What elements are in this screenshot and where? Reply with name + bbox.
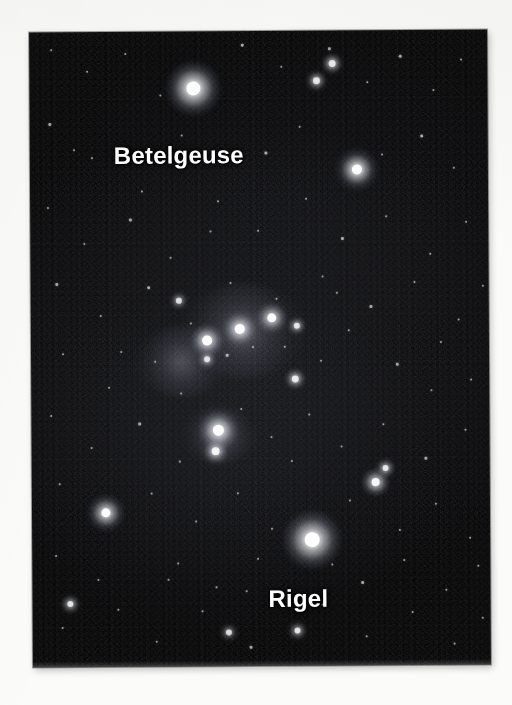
field-star [246, 590, 248, 592]
field-star [349, 499, 351, 501]
star-field [29, 30, 487, 33]
field-star [129, 218, 132, 221]
field-star [305, 198, 307, 200]
star-epsilon-leporis [226, 629, 232, 635]
star-halo [285, 369, 305, 389]
field-star [190, 322, 192, 324]
field-star [83, 243, 85, 245]
field-star [460, 59, 462, 61]
nebulosity-layer [29, 30, 487, 33]
field-star [369, 305, 372, 308]
field-star [366, 81, 368, 83]
field-star [320, 360, 322, 362]
star-halo [307, 72, 325, 90]
field-star [86, 71, 88, 73]
star-tau-orionis [294, 323, 300, 329]
field-star [97, 579, 99, 581]
star-eta-leporis [372, 478, 380, 486]
field-star [440, 341, 442, 343]
star-phi-orionis [313, 77, 320, 84]
field-star [147, 286, 150, 289]
field-star [91, 447, 93, 449]
field-star [62, 627, 64, 629]
field-star [396, 363, 399, 366]
star-halo [200, 352, 215, 367]
nebulosity-patch [183, 406, 255, 464]
field-star [170, 257, 172, 259]
film-grain-overlay [29, 30, 491, 668]
nebulosity-patch [136, 325, 226, 398]
field-star [271, 528, 273, 530]
field-star [470, 379, 472, 381]
field-star [237, 492, 239, 494]
field-star [250, 646, 253, 649]
field-star [50, 49, 52, 51]
bottom-edge-artifact [33, 659, 491, 668]
field-star [458, 319, 460, 321]
star-bellatrix [352, 164, 362, 174]
field-star [432, 89, 434, 91]
field-star [271, 436, 273, 438]
field-star [403, 559, 405, 561]
field-star [179, 461, 181, 463]
field-star [445, 589, 447, 591]
field-star [482, 285, 484, 287]
star-halo [222, 626, 235, 639]
field-star [361, 581, 364, 584]
star-meissa [329, 60, 336, 67]
field-star [469, 537, 471, 539]
field-star [138, 422, 141, 425]
nebulosity-patch [183, 283, 304, 380]
field-star [430, 389, 432, 391]
star-mintaka [267, 313, 276, 322]
field-star [177, 562, 179, 564]
star-halo [86, 493, 126, 533]
star-halo [204, 439, 228, 463]
star-lambda-leporis [292, 375, 299, 382]
field-star [141, 191, 143, 193]
field-star [159, 95, 161, 97]
field-star [328, 47, 331, 50]
star-halo [190, 323, 224, 357]
field-star [336, 292, 338, 294]
field-star [322, 276, 324, 278]
field-star [366, 635, 368, 637]
star-mu-leporis [295, 628, 301, 634]
star-pi3-orionis [383, 465, 389, 471]
star-halo [334, 146, 380, 192]
star-halo [289, 318, 305, 334]
star-halo [290, 623, 306, 639]
field-star [240, 408, 242, 410]
field-star [180, 392, 182, 394]
field-star [454, 643, 456, 645]
field-star [453, 167, 455, 169]
star-halo [322, 53, 342, 73]
field-star [399, 55, 402, 58]
field-star [216, 586, 218, 588]
field-star [100, 315, 102, 317]
field-star [108, 387, 110, 389]
field-star [55, 283, 58, 286]
field-star [202, 610, 204, 612]
field-star [385, 215, 387, 217]
field-star [91, 157, 93, 159]
field-star [412, 611, 414, 613]
field-star [477, 565, 479, 567]
field-star [308, 413, 310, 415]
star-alnitak [202, 335, 212, 345]
field-star [382, 423, 384, 425]
field-star [299, 126, 301, 128]
field-star [341, 445, 343, 447]
field-star [264, 152, 267, 155]
star-halo [62, 595, 80, 613]
star-label-rigel: Rigel [268, 585, 328, 613]
field-star [413, 281, 415, 283]
page-background: Betelgeuse Rigel [0, 0, 512, 705]
field-star [464, 429, 466, 431]
star-betelgeuse [186, 81, 200, 95]
field-star [226, 354, 229, 357]
field-star [181, 134, 183, 136]
field-star [48, 123, 51, 126]
orion-photograph: Betelgeuse Rigel [29, 30, 491, 668]
field-star [348, 329, 350, 331]
